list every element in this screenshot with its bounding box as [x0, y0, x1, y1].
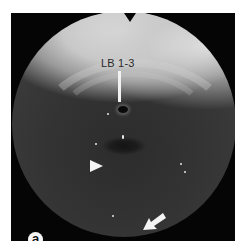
arrow-icon [141, 210, 167, 232]
light-reflection [122, 135, 124, 139]
light-reflection [107, 113, 109, 115]
bronchial-orifice [118, 106, 128, 113]
light-reflection [180, 163, 182, 165]
annotation-label: LB 1-3 [101, 57, 135, 69]
scope-notch [124, 13, 136, 22]
arrowhead-icon [90, 160, 103, 172]
mucosal-fold [52, 71, 214, 193]
endoscopic-field-of-view [12, 13, 235, 237]
light-reflection [112, 215, 114, 217]
panel-label-badge: a [28, 232, 43, 241]
light-reflection [184, 171, 186, 173]
light-reflection [95, 143, 97, 145]
endoscopy-image-frame: LB 1-3 a [11, 13, 235, 241]
pointer-line [118, 71, 121, 102]
